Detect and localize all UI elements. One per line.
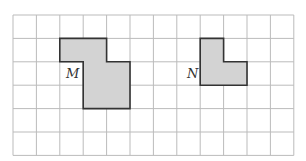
grid-diagram: M N	[0, 0, 306, 161]
label-n: N	[186, 66, 199, 81]
shape-n	[200, 38, 247, 85]
label-m: M	[65, 66, 80, 81]
grid-lines	[13, 15, 294, 155]
